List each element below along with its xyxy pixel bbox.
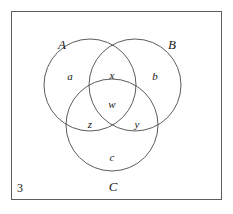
venn-diagram-figure: A B C a b c x w z y 3 — [0, 0, 233, 214]
figure-number: 3 — [17, 182, 23, 194]
venn-circles-group — [0, 0, 233, 214]
